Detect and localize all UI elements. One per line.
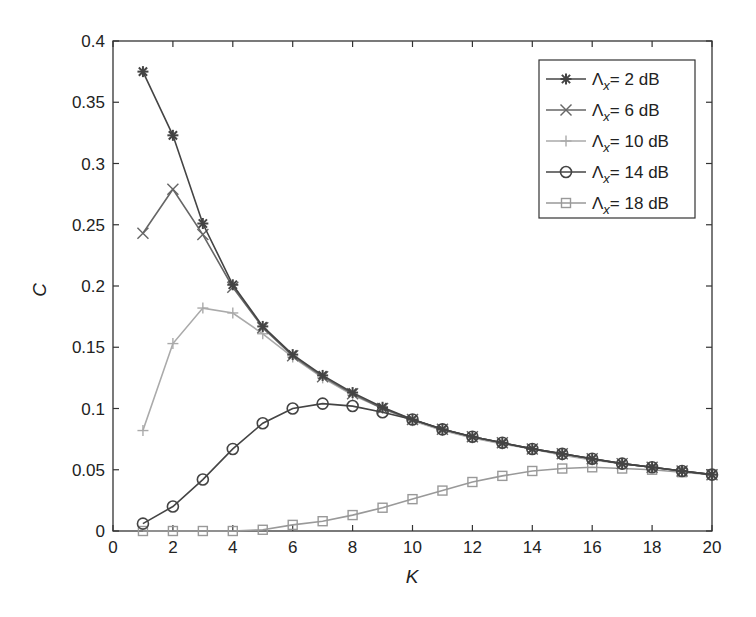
x-axis-title: K	[406, 566, 420, 587]
y-tick-label: 0.1	[81, 400, 105, 419]
x-tick-label: 4	[228, 538, 237, 557]
y-tick-label: 0.3	[81, 155, 105, 174]
x-tick-label: 8	[348, 538, 357, 557]
y-tick-label: 0.4	[81, 32, 105, 51]
y-tick-label: 0	[96, 522, 105, 541]
y-tick-label: 0.2	[81, 277, 105, 296]
x-tick-label: 10	[403, 538, 422, 557]
x-tick-label: 6	[288, 538, 297, 557]
x-tick-label: 0	[108, 538, 117, 557]
x-tick-label: 16	[583, 538, 602, 557]
x-tick-label: 18	[643, 538, 662, 557]
x-tick-label: 20	[703, 538, 722, 557]
y-axis-title: C	[29, 283, 50, 297]
x-tick-label: 14	[523, 538, 542, 557]
y-tick-label: 0.05	[72, 461, 105, 480]
line-chart: 0246810121416182000.050.10.150.20.250.30…	[0, 0, 756, 617]
legend: Λx= 2 dBΛx= 6 dBΛx= 10 dBΛx= 14 dBΛx= 18…	[539, 60, 695, 218]
y-tick-label: 0.25	[72, 216, 105, 235]
legend-marker-icon	[561, 74, 572, 85]
y-tick-label: 0.35	[72, 93, 105, 112]
x-tick-label: 2	[168, 538, 177, 557]
y-tick-label: 0.15	[72, 338, 105, 357]
x-tick-label: 12	[463, 538, 482, 557]
